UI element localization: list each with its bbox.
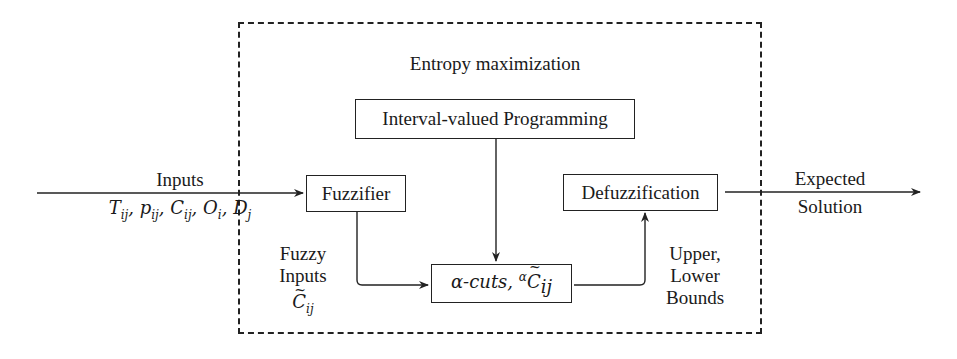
output-label-solution: Solution bbox=[775, 196, 885, 218]
interval-valued-programming-label: Interval-valued Programming bbox=[382, 108, 607, 130]
fuzzifier-label: Fuzzifier bbox=[322, 183, 391, 205]
bounds-label: Upper, Lower Bounds bbox=[655, 243, 735, 309]
frame-title: Entropy maximization bbox=[340, 53, 650, 75]
interval-valued-programming-box: Interval-valued Programming bbox=[355, 99, 635, 139]
var-p: pij bbox=[140, 197, 159, 218]
alpha-cuts-label: α-cuts, αCij bbox=[451, 270, 552, 297]
bounds-line2: Lower bbox=[655, 265, 735, 287]
alpha-cuts-subscript: ij bbox=[541, 276, 552, 297]
fuzzifier-box: Fuzzifier bbox=[306, 175, 406, 212]
var-T: Tij bbox=[109, 197, 129, 218]
inputs-variables: Tij, pij, Cij, Oi, Dj bbox=[70, 197, 290, 226]
fuzzy-inputs-line1: Fuzzy bbox=[268, 243, 338, 265]
alpha-cuts-box: α-cuts, αCij bbox=[431, 264, 572, 303]
defuzzification-label: Defuzzification bbox=[581, 182, 699, 204]
alpha-cuts-superscript: α bbox=[519, 270, 527, 284]
defuzzification-box: Defuzzification bbox=[563, 174, 718, 211]
bounds-line1: Upper, bbox=[655, 243, 735, 265]
var-O: Oi bbox=[203, 197, 222, 218]
bounds-line3: Bounds bbox=[655, 287, 735, 309]
output-label-expected: Expected bbox=[775, 168, 885, 190]
var-D: Dj bbox=[233, 197, 251, 218]
fuzzy-inputs-variable: Cij bbox=[268, 291, 338, 320]
fuzzy-inputs-label: Fuzzy Inputs Cij bbox=[268, 243, 338, 320]
alpha-cuts-variable: C bbox=[527, 271, 541, 292]
var-C: Cij bbox=[170, 197, 191, 218]
inputs-label: Inputs bbox=[130, 169, 230, 191]
alpha-cuts-prefix: α-cuts, bbox=[451, 271, 519, 292]
